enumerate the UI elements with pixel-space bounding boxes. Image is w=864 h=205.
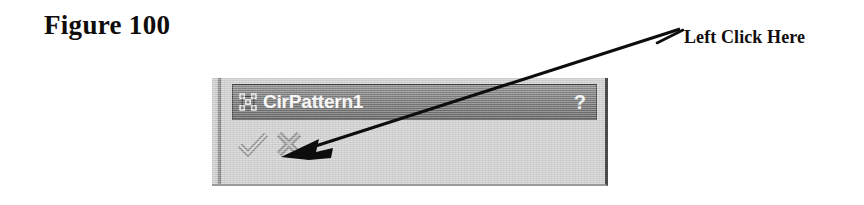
ok-button[interactable] bbox=[236, 128, 270, 160]
dialog-titlebar[interactable]: CirPattern1 ? bbox=[232, 84, 597, 120]
dialog-action-row bbox=[236, 128, 306, 160]
dialog-content: CirPattern1 ? bbox=[226, 78, 605, 184]
callout-label: Left Click Here bbox=[684, 26, 805, 48]
circular-pattern-icon bbox=[238, 92, 258, 112]
dialog-rail-divider bbox=[217, 78, 221, 184]
cancel-button[interactable] bbox=[272, 128, 306, 160]
property-manager-dialog: CirPattern1 ? bbox=[212, 78, 608, 186]
leader-line bbox=[657, 30, 683, 43]
figure-label: Figure 100 bbox=[44, 9, 170, 41]
help-button[interactable]: ? bbox=[574, 92, 588, 112]
figure-canvas: Figure 100 Left Click Here bbox=[0, 0, 864, 205]
dialog-left-rail bbox=[212, 78, 226, 184]
dialog-title: CirPattern1 bbox=[263, 92, 574, 112]
